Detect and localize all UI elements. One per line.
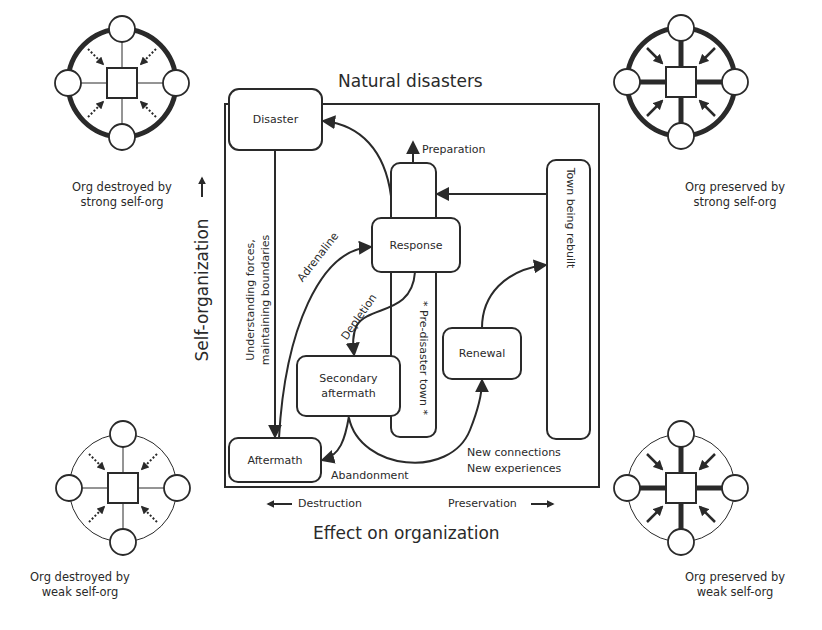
- glyph-preserved-weak: [614, 421, 748, 555]
- caption-line-2: weak self-org: [15, 585, 145, 600]
- preparation-label: Preparation: [422, 143, 486, 156]
- caption-line-1: Org preserved by: [675, 570, 795, 585]
- y-axis-label: Self-organization: [192, 218, 212, 361]
- understanding-line-2: maintaining boundaries: [258, 235, 273, 366]
- new-connections-label: New connections: [467, 446, 561, 459]
- renewal-label: Renewal: [443, 346, 521, 361]
- secondary-aftermath-label-2: aftermath: [297, 386, 400, 401]
- caption-destroyed-strong: Org destroyed by strong self-org: [62, 180, 182, 210]
- caption-line-2: strong self-org: [675, 195, 795, 210]
- caption-preserved-strong: Org preserved by strong self-org: [675, 180, 795, 210]
- x-axis-destruction-label: Destruction: [298, 497, 362, 510]
- caption-line-2: strong self-org: [62, 195, 182, 210]
- response-label: Response: [372, 238, 460, 253]
- new-experiences-label: New experiences: [467, 462, 561, 475]
- aftermath-label: Aftermath: [229, 453, 321, 468]
- glyph-destroyed-weak: [56, 421, 190, 555]
- abandonment-label: Abandonment: [331, 469, 409, 482]
- caption-preserved-weak: Org preserved by weak self-org: [675, 570, 795, 600]
- caption-line-2: weak self-org: [675, 585, 795, 600]
- caption-line-1: Org destroyed by: [15, 570, 145, 585]
- renewal-to-rebuilt-arrow: [482, 265, 545, 328]
- secondary-aftermath-label-1: Secondary: [297, 371, 400, 386]
- understanding-line-1: Understanding forces,: [243, 235, 258, 366]
- caption-line-1: Org preserved by: [675, 180, 795, 195]
- disaster-label: Disaster: [229, 112, 322, 127]
- to-disaster-arrow: [324, 121, 391, 196]
- title-effect-on-organization: Effect on organization: [313, 523, 500, 543]
- town-being-rebuilt-label: Town being rebuilt: [563, 168, 578, 269]
- pre-disaster-town-label: * Pre-disaster town *: [416, 301, 431, 415]
- title-natural-disasters: Natural disasters: [338, 71, 483, 91]
- caption-line-1: Org destroyed by: [62, 180, 182, 195]
- glyph-destroyed-strong: [55, 16, 189, 150]
- x-axis-preservation-label: Preservation: [448, 497, 517, 510]
- understanding-forces-label: Understanding forces, maintaining bounda…: [243, 235, 273, 366]
- glyph-preserved-strong: [614, 15, 748, 149]
- abandonment-arrow: [323, 416, 349, 460]
- caption-destroyed-weak: Org destroyed by weak self-org: [15, 570, 145, 600]
